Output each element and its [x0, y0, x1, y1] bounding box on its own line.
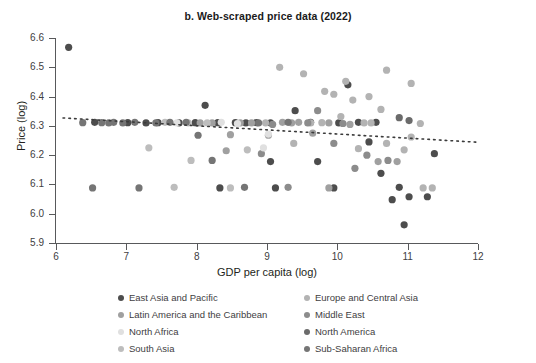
- data-point: [216, 184, 223, 191]
- data-point: [304, 119, 311, 126]
- data-point: [401, 146, 408, 153]
- legend-item[interactable]: South Asia: [118, 341, 318, 357]
- chart-title: b. Web-scraped price data (2022): [0, 10, 536, 22]
- data-point: [431, 150, 438, 157]
- data-point: [417, 120, 424, 127]
- legend: East Asia and PacificLatin America and t…: [118, 290, 518, 356]
- legend-column-right: Europe and Central AsiaMiddle EastNorth …: [304, 290, 504, 358]
- y-axis-tick-label: 6.6: [4, 33, 44, 43]
- data-point: [342, 78, 349, 85]
- x-axis-title: GDP per capita (log): [56, 266, 478, 278]
- legend-swatch-icon: [118, 312, 124, 318]
- legend-swatch-icon: [118, 295, 124, 301]
- data-point: [424, 193, 431, 200]
- x-axis-tick: [126, 244, 127, 250]
- data-point: [285, 184, 292, 191]
- data-point: [227, 131, 234, 138]
- x-axis-tick-label: 11: [388, 252, 428, 262]
- data-point: [325, 184, 332, 191]
- y-axis-tick-label: 6.5: [4, 62, 44, 72]
- legend-item[interactable]: Middle East: [304, 307, 504, 323]
- legend-item-label: Latin America and the Caribbean: [129, 310, 267, 320]
- data-point: [377, 170, 384, 177]
- data-point: [401, 221, 408, 228]
- legend-item[interactable]: North America: [304, 324, 504, 340]
- y-axis-tick-label: 6.3: [4, 121, 44, 131]
- data-point: [396, 184, 403, 191]
- y-axis-tick-label: 5.9: [4, 238, 44, 248]
- series-north-america: [396, 114, 413, 124]
- data-point: [389, 196, 396, 203]
- x-axis-tick: [337, 244, 338, 250]
- data-point: [405, 193, 412, 200]
- legend-item-label: Middle East: [315, 310, 365, 320]
- legend-swatch-icon: [304, 329, 310, 335]
- data-point: [330, 91, 337, 98]
- data-point: [351, 165, 358, 172]
- y-axis-tick-label: 6.1: [4, 179, 44, 189]
- data-point: [267, 158, 274, 165]
- data-point: [171, 184, 178, 191]
- legend-item[interactable]: East Asia and Pacific: [118, 290, 318, 306]
- data-point: [325, 119, 332, 126]
- data-point: [377, 106, 384, 113]
- data-point: [396, 114, 403, 121]
- data-point: [202, 102, 209, 109]
- legend-item[interactable]: Sub-Saharan Africa: [304, 341, 504, 357]
- legend-item[interactable]: North Africa: [118, 324, 318, 340]
- y-axis-tick: [49, 214, 55, 215]
- data-point: [244, 146, 251, 153]
- scatter-plot-figure: b. Web-scraped price data (2022) Price (…: [0, 0, 536, 363]
- data-point: [79, 119, 86, 126]
- data-point: [339, 120, 346, 127]
- data-point: [330, 140, 337, 147]
- y-axis-tick-label: 6.2: [4, 150, 44, 160]
- data-point: [314, 158, 321, 165]
- legend-item-label: East Asia and Pacific: [129, 293, 218, 303]
- data-point: [65, 44, 72, 51]
- legend-swatch-icon: [304, 295, 310, 301]
- data-point: [321, 88, 328, 95]
- x-axis-tick: [478, 244, 479, 250]
- data-point: [285, 119, 292, 126]
- y-axis-tick: [49, 67, 55, 68]
- data-point: [365, 138, 372, 145]
- legend-item[interactable]: Europe and Central Asia: [304, 290, 504, 306]
- data-point: [300, 70, 307, 77]
- data-point: [269, 121, 276, 128]
- y-axis-tick-label: 6.0: [4, 209, 44, 219]
- y-axis-tick: [49, 243, 55, 244]
- x-axis-tick-label: 12: [458, 252, 498, 262]
- data-point: [89, 184, 96, 191]
- legend-item[interactable]: Latin America and the Caribbean: [118, 307, 318, 323]
- data-point: [363, 152, 370, 159]
- plot-canvas: [56, 38, 478, 243]
- data-point: [408, 133, 415, 140]
- legend-swatch-icon: [304, 312, 310, 318]
- data-point: [355, 145, 362, 152]
- legend-item-label: Sub-Saharan Africa: [315, 344, 397, 354]
- data-point: [292, 107, 299, 114]
- y-axis-tick: [49, 184, 55, 185]
- x-axis-tick-label: 9: [247, 252, 287, 262]
- data-point: [383, 140, 390, 147]
- y-axis-tick: [49, 155, 55, 156]
- x-axis-tick: [197, 244, 198, 250]
- legend-item-label: South Asia: [129, 344, 174, 354]
- data-point: [408, 80, 415, 87]
- data-point: [383, 67, 390, 74]
- data-point: [204, 119, 211, 126]
- data-point: [349, 96, 356, 103]
- data-point: [367, 119, 374, 126]
- data-point: [260, 144, 267, 151]
- legend-swatch-icon: [118, 346, 124, 352]
- data-point: [241, 184, 248, 191]
- data-point: [375, 158, 382, 165]
- data-point: [394, 158, 401, 165]
- x-axis-tick: [267, 244, 268, 250]
- data-point: [262, 119, 269, 126]
- data-point: [405, 117, 412, 124]
- x-axis-tick: [408, 244, 409, 250]
- data-point: [135, 184, 142, 191]
- y-axis-tick: [49, 97, 55, 98]
